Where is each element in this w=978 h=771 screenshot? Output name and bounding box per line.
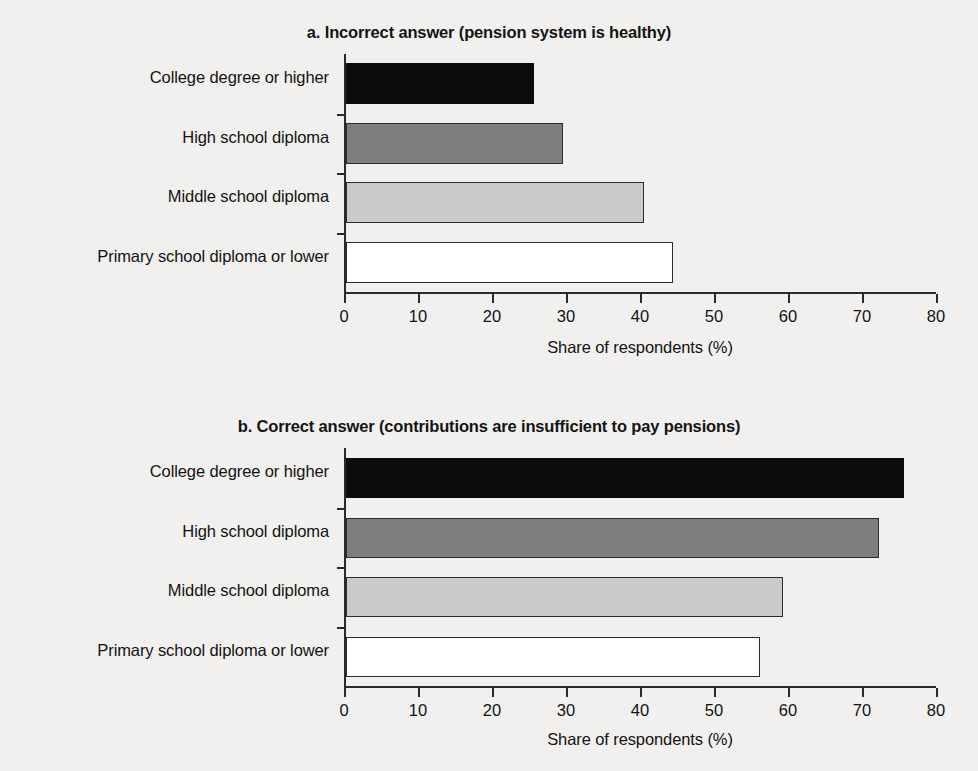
panel-b-ytick-0 [337,508,346,510]
panel-a-xtick-7 [862,294,864,303]
panel-a-category-labels: College degree or higher High school dip… [0,54,338,292]
panel-b-xtick-label-6: 60 [779,701,797,720]
panel-a-plot: College degree or higher High school dip… [0,54,978,354]
panel-a-xtick-5 [714,294,716,303]
panel-a-bar-middle-school[interactable] [346,182,644,223]
panel-a: a. Incorrect answer (pension system is h… [0,0,978,396]
panel-b-category-label-3: Primary school diploma or lower [97,637,329,663]
panel-b-bar-row-2 [346,567,936,627]
panel-a-xtick-6 [788,294,790,303]
panel-a-xtick-label-1: 10 [409,307,427,326]
panel-a-xtick-0 [344,294,346,303]
panel-a-category-label-2: Middle school diploma [168,183,329,209]
panel-b-xtick-2 [492,688,494,697]
panel-a-category-label-3: Primary school diploma or lower [97,243,329,269]
panel-b-bar-college[interactable] [346,458,904,498]
panel-a-bar-row-1 [346,114,936,174]
panel-a-category-label-1: High school diploma [182,124,329,150]
panel-b-bar-row-0 [346,448,936,508]
panel-b-xtick-5 [714,688,716,697]
panel-b-title: b. Correct answer (contributions are ins… [0,396,978,436]
panel-a-bar-row-2 [346,173,936,233]
panel-a-xtick-2 [492,294,494,303]
panel-b-bar-row-1 [346,508,936,568]
panel-b-xtick-7 [862,688,864,697]
panel-a-xtick-label-3: 30 [557,307,575,326]
panel-a-xtick-label-2: 20 [483,307,501,326]
panel-b-xtick-8 [936,688,938,697]
panel-a-xtick-4 [640,294,642,303]
panel-b-xtick-label-1: 10 [409,701,427,720]
panel-b-xtick-label-5: 50 [705,701,723,720]
panel-b-category-label-2: Middle school diploma [168,577,329,603]
panel-a-xtick-3 [566,294,568,303]
panel-a-xtick-label-8: 80 [927,307,945,326]
panel-a-xaxis: 0 10 20 30 40 50 60 70 80 [344,292,936,294]
panel-b-bar-primary-school[interactable] [346,637,760,677]
panel-b-plot: College degree or higher High school dip… [0,448,978,738]
panel-b-xtick-3 [566,688,568,697]
panel-a-category-label-0: College degree or higher [150,64,329,90]
panel-a-xtick-label-5: 50 [705,307,723,326]
panel-a-title: a. Incorrect answer (pension system is h… [0,0,978,42]
panel-a-xtick-1 [418,294,420,303]
panel-b-category-labels: College degree or higher High school dip… [0,448,338,686]
panel-b-bar-row-3 [346,627,936,687]
panel-b-category-label-0: College degree or higher [150,458,329,484]
panel-a-bar-college[interactable] [346,63,534,104]
panel-b: b. Correct answer (contributions are ins… [0,396,978,771]
panel-b-xtick-label-0: 0 [339,701,348,720]
panel-a-bar-row-3 [346,233,936,293]
panel-a-xaxis-title: Share of respondents (%) [344,338,936,357]
panel-a-xtick-8 [936,294,938,303]
panel-b-xtick-0 [344,688,346,697]
panel-a-xtick-label-4: 40 [631,307,649,326]
panel-b-ytick-1 [337,567,346,569]
panel-a-bar-high-school[interactable] [346,123,563,164]
panel-a-bar-row-0 [346,54,936,114]
panel-a-xtick-label-7: 70 [853,307,871,326]
panel-b-bar-middle-school[interactable] [346,577,783,617]
panel-b-xtick-label-2: 20 [483,701,501,720]
panel-b-xaxis: 0 10 20 30 40 50 60 70 80 [344,686,936,688]
panel-b-xtick-4 [640,688,642,697]
panel-b-xaxis-title: Share of respondents (%) [344,730,936,749]
panel-a-xtick-label-0: 0 [339,307,348,326]
panel-b-ytick-2 [337,627,346,629]
panel-a-ytick-1 [337,173,346,175]
panel-a-ytick-2 [337,233,346,235]
panel-b-xtick-label-4: 40 [631,701,649,720]
panel-a-xtick-label-6: 60 [779,307,797,326]
panel-b-xtick-label-3: 30 [557,701,575,720]
panel-b-bar-high-school[interactable] [346,518,879,558]
panel-b-xtick-1 [418,688,420,697]
panel-a-ytick-0 [337,114,346,116]
panel-b-axis-area [344,448,936,686]
panel-a-bar-primary-school[interactable] [346,242,673,283]
panel-b-xtick-6 [788,688,790,697]
panel-b-xtick-label-8: 80 [927,701,945,720]
panel-a-axis-area [344,54,936,292]
panel-b-category-label-1: High school diploma [182,518,329,544]
figure-container: a. Incorrect answer (pension system is h… [0,0,978,771]
panel-b-xtick-label-7: 70 [853,701,871,720]
